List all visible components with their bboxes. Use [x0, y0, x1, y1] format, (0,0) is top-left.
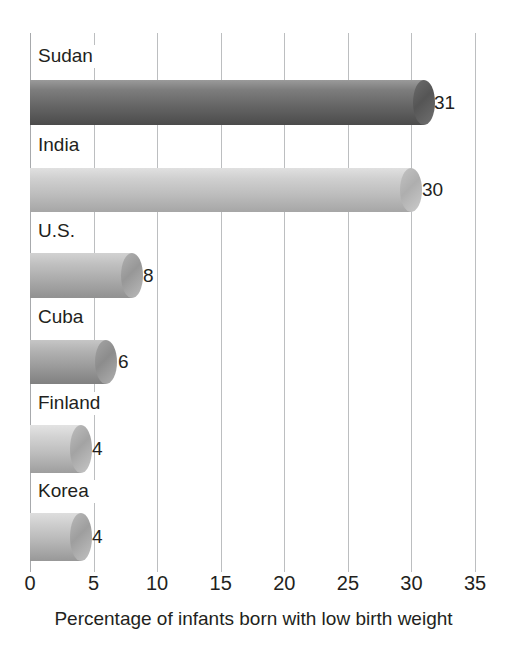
x-axis: 0 5 10 15 20 25 30 35: [30, 572, 475, 602]
x-tick-25: 25: [337, 572, 359, 595]
bar-cap-korea: [70, 513, 92, 561]
category-label-us: U.S.: [32, 220, 81, 243]
bar-row-cuba: 6: [30, 340, 475, 384]
x-tick-20: 20: [273, 572, 295, 595]
bar-sudan[interactable]: [30, 80, 424, 125]
x-tick-30: 30: [400, 572, 422, 595]
bar-cap-india: [400, 168, 422, 212]
bar-value-korea: 4: [92, 526, 103, 548]
bar-cap-cuba: [95, 340, 117, 384]
gridline-35: [475, 33, 476, 572]
category-label-cuba: Cuba: [32, 306, 89, 329]
bar-finland[interactable]: [30, 425, 81, 473]
x-tick-35: 35: [464, 572, 486, 595]
x-tick-5: 5: [88, 572, 99, 595]
x-tick-10: 10: [146, 572, 168, 595]
bar-cuba[interactable]: [30, 340, 106, 384]
bar-row-us: 8: [30, 253, 475, 298]
bar-row-finland: 4: [30, 425, 475, 473]
bar-row-india: 30: [30, 168, 475, 212]
bar-cap-finland: [70, 425, 92, 473]
x-axis-title: Percentage of infants born with low birt…: [0, 608, 507, 630]
x-tick-15: 15: [210, 572, 232, 595]
category-label-sudan: Sudan: [32, 45, 99, 68]
bar-body-sudan: [30, 80, 424, 125]
category-label-india: India: [32, 134, 85, 157]
bar-india[interactable]: [30, 168, 411, 212]
bar-value-india: 30: [422, 179, 443, 201]
bar-korea[interactable]: [30, 513, 81, 561]
bar-cap-us: [121, 253, 143, 298]
x-tick-0: 0: [24, 572, 35, 595]
bar-value-sudan: 31: [434, 92, 455, 114]
bar-body-us: [30, 253, 132, 298]
category-label-finland: Finland: [32, 392, 106, 415]
bar-cap-sudan: [413, 80, 435, 125]
bar-value-cuba: 6: [118, 351, 129, 373]
bar-row-korea: 4: [30, 513, 475, 561]
bar-value-us: 8: [143, 265, 154, 287]
category-label-korea: Korea: [32, 480, 95, 503]
bar-chart: 31 30 8 6: [0, 0, 507, 645]
bar-row-sudan: 31: [30, 80, 475, 125]
bar-body-india: [30, 168, 411, 212]
bar-value-finland: 4: [92, 438, 103, 460]
plot-area: 31 30 8 6: [30, 33, 475, 562]
bar-us[interactable]: [30, 253, 132, 298]
